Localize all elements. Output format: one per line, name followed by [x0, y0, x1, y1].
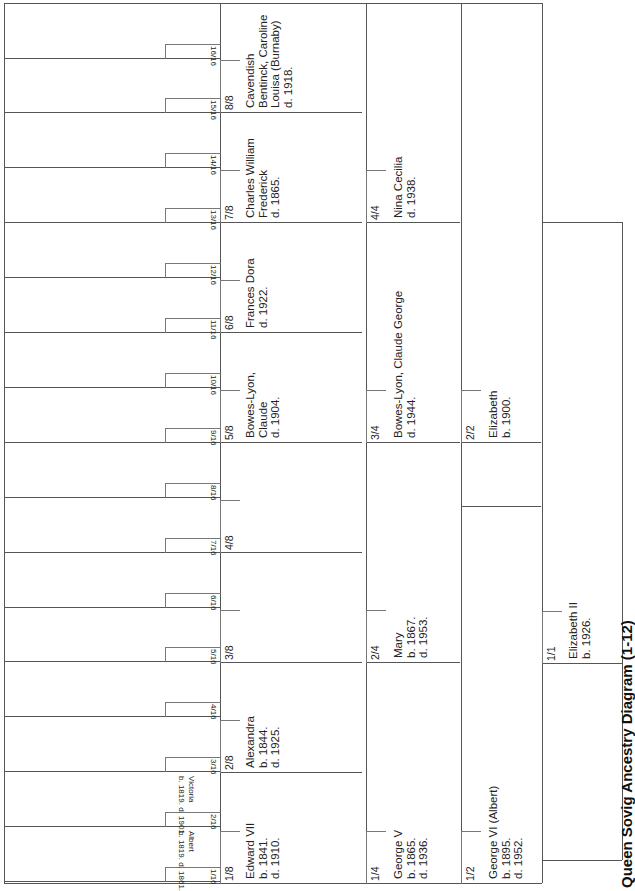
person-line1-1-4: b. 1865. [405, 837, 418, 879]
person-name-5-8: Bowes-Lyon, [244, 372, 257, 438]
person-name-1-2: George VI (Albert) [487, 786, 500, 879]
pos-label-1-2: 1/2 [464, 866, 476, 881]
person-line1-1-8: b. 1841. [257, 837, 270, 879]
pos-label-1-1: 1/1 [545, 646, 557, 661]
person-name-3-4: Bowes-Lyon, Claude George [392, 291, 405, 438]
pos-label-3-16: 3/16 [209, 759, 218, 775]
row-line-3-8 [220, 662, 362, 663]
person-line2-2-8: d. 1925. [269, 726, 282, 768]
pos-label-2-8: 2/8 [223, 755, 235, 770]
pos-label-7-8: 7/8 [223, 205, 235, 220]
row-line-6-8 [220, 332, 362, 333]
box-1-bottom [542, 860, 622, 861]
person-name-2-4: Mary [392, 632, 405, 658]
pos-label-2-4: 2/4 [369, 645, 381, 660]
pos-label-13-16: 13/16 [209, 210, 218, 230]
connector-2nds-mid [461, 506, 541, 507]
person-line3-8-8: d. 1918. [282, 66, 295, 108]
pos-label-3-4: 3/4 [369, 425, 381, 440]
person-line1-8-8: Bentinck, Caroline [257, 15, 270, 108]
pos-label-1-4: 1/4 [369, 866, 381, 881]
person-line1-3-4: d. 1944. [405, 396, 418, 438]
person-name-1-4: George V [392, 830, 405, 879]
person-line1-2-2: b. 1900. [500, 396, 513, 438]
frame-left [4, 3, 5, 883]
person-dates-1-16: b. 1819. d. 1861. [177, 831, 186, 891]
pos-label-1-16: 1/16 [209, 869, 218, 885]
col-divider-2nds [461, 3, 462, 883]
person-line2-8-8: Louisa (Burnaby) [269, 20, 282, 108]
row-line-5-8 [220, 442, 362, 443]
pos-label-4-8: 4/8 [223, 535, 235, 550]
row-line-2-8 [220, 772, 362, 773]
person-line2-7-8: d. 1865. [269, 176, 282, 218]
person-name-1-16: Albert [187, 831, 196, 852]
person-line1-1-1: b. 1926. [580, 617, 593, 659]
person-name-4-4: Nina Cecilia [392, 157, 405, 218]
person-name-2-8: Alexandra [244, 716, 257, 768]
pos-label-8-8: 8/8 [223, 95, 235, 110]
row-line-8-8 [220, 112, 362, 113]
person-line1-1-2: b. 1895. [500, 837, 513, 879]
person-name-2-2: Elizabeth [487, 391, 500, 438]
pos-label-2-2: 2/2 [464, 425, 476, 440]
person-line2-1-8: d. 1910. [269, 837, 282, 879]
pos-label-1-8: 1/8 [223, 866, 235, 881]
person-line2-2-4: d. 1953. [417, 616, 430, 658]
pos-label-5-16: 5/16 [209, 649, 218, 665]
person-line1-2-4: b. 1867. [405, 616, 418, 658]
row-line-1-8 [220, 883, 362, 884]
person-line1-7-8: Frederick [257, 170, 270, 218]
diagram-title: Queen Sovig Ancestry Diagram (1-12) [618, 620, 635, 888]
pos-label-12-16: 12/16 [209, 265, 218, 285]
person-line2-1-4: d. 1936. [417, 837, 430, 879]
pos-label-2-16: 2/16 [209, 814, 218, 830]
person-line1-6-8: d. 1922. [257, 286, 270, 328]
person-line1-4-4: d. 1938. [405, 176, 418, 218]
pos-label-3-8: 3/8 [223, 645, 235, 660]
person-line1-5-8: Claude [257, 402, 270, 438]
col-divider-4ths [366, 3, 367, 883]
pos-label-9-16: 9/16 [209, 430, 218, 446]
person-dates-2-16: b. 1819. d. 1901. [177, 776, 186, 836]
pos-label-14-16: 14/16 [209, 155, 218, 175]
person-name-6-8: Frances Dora [244, 258, 257, 328]
pos-label-6-8: 6/8 [223, 315, 235, 330]
person-name-7-8: Charles William [244, 138, 257, 218]
pos-label-16-16: 16/16 [209, 46, 218, 66]
pos-label-4-4: 4/4 [369, 205, 381, 220]
pos-label-11-16: 11/16 [209, 320, 218, 339]
pos-label-4-16: 4/16 [209, 704, 218, 720]
person-name-2-16: Victoria [187, 776, 196, 803]
pos-label-7-16: 7/16 [209, 540, 218, 556]
row-line-7-8 [220, 222, 362, 223]
person-line1-2-8: b. 1844. [257, 726, 270, 768]
person-line2-1-2: d. 1952. [512, 837, 525, 879]
pos-label-15-16: 15/16 [209, 100, 218, 120]
pos-label-10-16: 10/16 [209, 375, 218, 395]
pos-label-5-8: 5/8 [223, 425, 235, 440]
box-1-top [542, 222, 622, 223]
pos-label-6-16: 6/16 [209, 595, 218, 611]
person-name-8-8: Cavendish [244, 54, 257, 108]
col-divider-1st [542, 3, 543, 883]
person-name-1-1: Elizabeth II [567, 602, 580, 659]
row-line-4-8 [220, 552, 362, 553]
pos-label-8-16: 8/16 [209, 485, 218, 501]
person-line2-5-8: d. 1904. [269, 396, 282, 438]
person-name-1-8: Edward VII [244, 823, 257, 879]
